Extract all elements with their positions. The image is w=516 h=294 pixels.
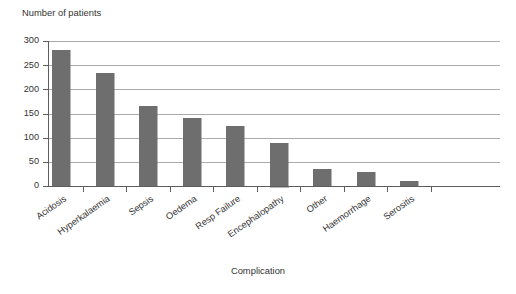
y-tick-label: 300	[24, 35, 39, 45]
y-tick-label: 250	[24, 60, 39, 70]
bar	[270, 143, 288, 187]
x-axis-title: Complication	[231, 265, 285, 276]
bar	[226, 126, 244, 186]
bar-chart-figure: 050100150200250300 AcidosisHyperkalaemia…	[0, 0, 516, 294]
y-axis-title: Number of patients	[22, 7, 102, 18]
chart-background	[0, 0, 516, 294]
bar	[139, 106, 157, 186]
bar	[400, 181, 418, 186]
y-tick-label: 200	[24, 84, 39, 94]
y-tick-label: 50	[29, 156, 39, 166]
y-tick-label: 100	[24, 132, 39, 142]
bar	[52, 50, 70, 186]
bar	[96, 73, 114, 186]
y-tick-label: 150	[24, 108, 39, 118]
bar	[183, 118, 201, 186]
y-tick-label: 0	[34, 180, 39, 190]
bar	[357, 172, 375, 186]
bar	[313, 169, 331, 186]
chart-canvas: 050100150200250300 AcidosisHyperkalaemia…	[0, 0, 516, 294]
